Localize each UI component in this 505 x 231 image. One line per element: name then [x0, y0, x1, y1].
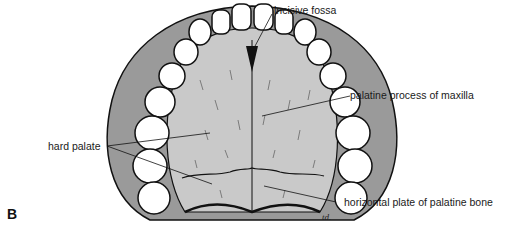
label-incisive-fossa: incisive fossa [274, 4, 336, 16]
panel-letter: B [7, 206, 17, 222]
artist-signature: td. [322, 212, 331, 222]
label-hard-palate: hard palate [48, 140, 101, 152]
label-horizontal-plate: horizontal plate of palatine bone [344, 196, 493, 208]
label-palatine-process: palatine process of maxilla [350, 89, 474, 101]
palate-diagram: incisive fossa palatine process of maxil… [0, 0, 505, 231]
